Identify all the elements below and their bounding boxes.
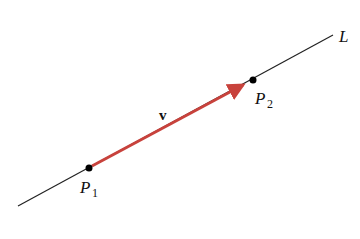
point-p1-dot	[86, 165, 93, 172]
point-p2-dot	[250, 77, 257, 84]
point-p1-label: P	[79, 178, 90, 197]
point-p2-subscript: 2	[267, 97, 273, 111]
vector-label: v	[159, 107, 167, 123]
vector-v-arrow	[92, 85, 243, 166]
line-label: L	[338, 27, 348, 46]
point-p2-label: P	[254, 89, 265, 108]
diagram-canvas: L v P 1 P 2	[0, 0, 360, 239]
point-p1-subscript: 1	[92, 186, 98, 200]
